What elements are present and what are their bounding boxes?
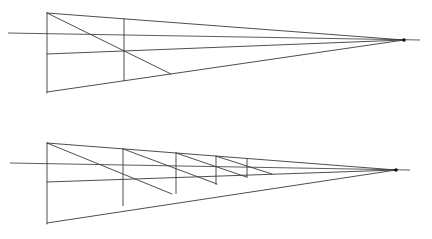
diagonal <box>47 13 171 74</box>
middle-orthogonal <box>47 40 404 54</box>
middle-orthogonal <box>47 170 396 182</box>
top-orthogonal <box>47 13 404 40</box>
top-orthogonal <box>47 143 396 170</box>
vanishing-point <box>402 38 406 42</box>
bottom-orthogonal <box>47 170 396 223</box>
bottom-orthogonal <box>47 40 404 92</box>
vanishing-point <box>394 168 398 172</box>
figure-repeated-divisions <box>10 143 410 224</box>
perspective-diagram <box>0 0 432 239</box>
diagonal <box>176 153 247 177</box>
figure-single-division <box>8 13 420 93</box>
diagonal <box>47 143 172 194</box>
diagonal <box>216 156 272 174</box>
